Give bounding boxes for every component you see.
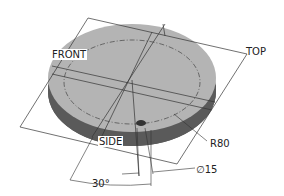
front-label: FRONT — [51, 49, 87, 60]
angle-label: 30° — [92, 178, 110, 189]
side-label: SIDE — [98, 136, 123, 147]
radius-label: R80 — [210, 138, 230, 149]
isometric-disc-drawing — [0, 0, 284, 196]
hole-diameter-label: ∅15 — [196, 164, 217, 175]
hole — [136, 120, 146, 126]
top-label: TOP — [246, 46, 266, 57]
